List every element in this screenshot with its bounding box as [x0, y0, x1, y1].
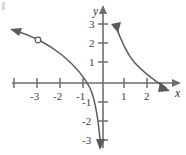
- x-axis: [12, 78, 181, 88]
- y-tick-label--1: -1: [82, 97, 91, 108]
- x-tick-label--2: -2: [53, 91, 62, 102]
- y-axis: [98, 5, 108, 148]
- y-tick-label-1: 1: [89, 57, 95, 68]
- x-tick-label--3: -3: [30, 91, 39, 102]
- y-tick-label-3: 3: [89, 19, 95, 30]
- x-tick-label-2: 2: [144, 91, 150, 102]
- y-tick-label--2: -2: [82, 116, 91, 127]
- x-axis-label: x: [175, 88, 180, 100]
- y-tick-label-2: 2: [89, 38, 95, 49]
- curve-right-branch: [111, 22, 170, 92]
- y-tick-label--3: -3: [82, 135, 91, 146]
- y-axis-label: y: [93, 6, 98, 18]
- open-circle-point: [35, 37, 41, 43]
- x-tick-label-1: 1: [121, 91, 127, 102]
- graph-figure: -3 -2 -1 1 2 3 2 1 -1 -2 -3 y x: [0, 0, 186, 155]
